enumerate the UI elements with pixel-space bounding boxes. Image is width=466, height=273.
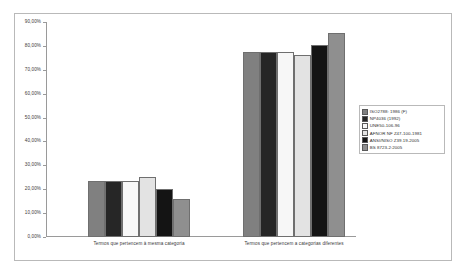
x-axis-category-label: Termos que pertencem a categorias difere… [214,241,374,246]
y-axis-tick-label: 60,00% [25,89,41,99]
y-axis-tick-mark [43,237,46,238]
bar [260,52,277,237]
legend-label: ISO2788: 1986 (F) [370,108,407,115]
y-axis-tick: 40,00% [0,136,46,146]
legend-label: BS 8723-2:2005 [370,144,402,151]
y-axis-tick: 50,00% [0,113,46,123]
legend-color-swatch [362,109,368,115]
y-axis-tick-label: 50,00% [25,113,41,123]
y-axis-tick-label: 20,00% [25,184,41,194]
legend-color-swatch [362,116,368,122]
legend-label: UNE50-106-96 [370,122,400,129]
y-axis-tick-label: 90,00% [25,17,41,27]
chart-container: 0,00%10,00%20,00%30,00%40,00%50,00%60,00… [0,0,466,273]
legend-item: ANSI/NISO Z39.19-2005 [362,137,442,144]
bar [122,181,139,237]
bar [328,33,345,237]
bar [139,177,156,237]
x-axis-category-label: Termos que pertencem à mesma categoria [59,241,219,246]
y-axis-tick-label: 30,00% [25,160,41,170]
y-axis-tick-label: 10,00% [25,208,41,218]
bar [88,181,105,237]
legend-item: BS 8723-2:2005 [362,144,442,151]
chart-legend: ISO2788: 1986 (F)NP4036 (1992)UNE50-106-… [359,105,445,154]
bar [277,52,294,237]
legend-item: ISO2788: 1986 (F) [362,108,442,115]
y-axis-tick: 20,00% [0,184,46,194]
y-axis-tick: 30,00% [0,160,46,170]
y-axis-tick: 10,00% [0,208,46,218]
legend-item: NP4036 (1992) [362,115,442,122]
legend-item: UNE50-106-96 [362,122,442,129]
legend-label: AFNOR NF Z47-100-1981 [370,130,422,137]
y-axis-tick: 60,00% [0,89,46,99]
bar [294,55,311,237]
bar [105,181,122,237]
legend-color-swatch [362,144,368,150]
legend-color-swatch [362,123,368,129]
y-axis-tick: 70,00% [0,65,46,75]
bar [156,189,173,237]
legend-label: NP4036 (1992) [370,115,400,122]
legend-label: ANSI/NISO Z39.19-2005 [370,137,419,144]
plot-area [46,22,398,237]
bar-group [243,22,345,237]
y-axis-tick-label: 70,00% [25,65,41,75]
y-axis-tick-label: 40,00% [25,136,41,146]
y-axis-tick: 0,00% [0,232,46,242]
bar [311,45,328,237]
legend-color-swatch [362,137,368,143]
bar [243,52,260,237]
bar [173,199,190,237]
y-axis-tick: 80,00% [0,41,46,51]
legend-color-swatch [362,130,368,136]
y-axis-tick-label: 0,00% [27,232,41,242]
legend-item: AFNOR NF Z47-100-1981 [362,130,442,137]
y-axis-tick-label: 80,00% [25,41,41,51]
y-axis-tick: 90,00% [0,17,46,27]
bar-group [88,22,190,237]
